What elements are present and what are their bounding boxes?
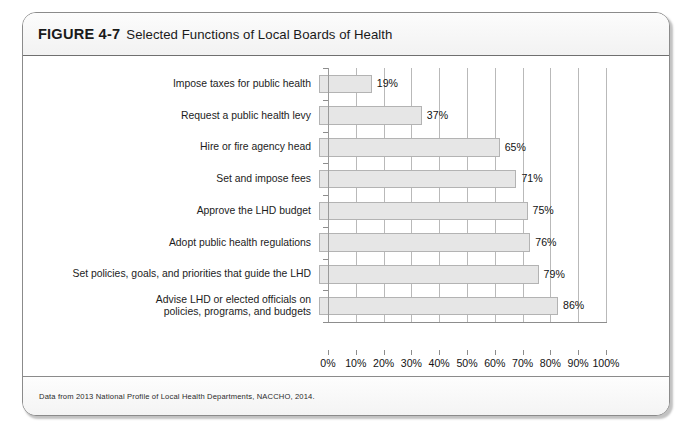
figure-caption: Selected Functions of Local Boards of He… (126, 27, 392, 42)
x-tick-label: 60% (484, 357, 505, 369)
x-tick (550, 350, 551, 355)
x-tick (606, 350, 607, 355)
x-tick (439, 350, 440, 355)
x-tick (578, 350, 579, 355)
x-tick (328, 350, 329, 355)
source-note: Data from 2013 National Profile of Local… (39, 392, 315, 401)
plot-area: Impose taxes for public health19%Request… (23, 68, 670, 350)
y-axis-line (328, 68, 329, 322)
x-tick-label: 80% (540, 357, 561, 369)
x-tick-label: 20% (373, 357, 394, 369)
x-axis: 0%10%20%30%40%50%60%70%80%90%100% (23, 350, 670, 378)
x-tick (356, 350, 357, 355)
x-tick (467, 350, 468, 355)
x-tick-label: 0% (320, 357, 335, 369)
x-tick-label: 70% (512, 357, 533, 369)
figure-footer: Data from 2013 National Profile of Local… (23, 376, 669, 415)
figure-number: FIGURE 4-7 (38, 26, 120, 42)
figure-header: FIGURE 4-7 Selected Functions of Local B… (23, 13, 669, 56)
x-tick-label: 30% (401, 357, 422, 369)
x-tick-label: 100% (592, 357, 619, 369)
x-tick (495, 350, 496, 355)
x-tick (523, 350, 524, 355)
x-tick-label: 10% (345, 357, 366, 369)
x-tick (411, 350, 412, 355)
y-axis-ticks (23, 68, 670, 350)
x-tick-label: 50% (456, 357, 477, 369)
chart-body: Impose taxes for public health19%Request… (23, 56, 669, 378)
x-tick (384, 350, 385, 355)
figure-card: FIGURE 4-7 Selected Functions of Local B… (22, 12, 670, 416)
x-axis-line (328, 322, 607, 323)
x-tick-label: 40% (429, 357, 450, 369)
x-tick-label: 90% (568, 357, 589, 369)
